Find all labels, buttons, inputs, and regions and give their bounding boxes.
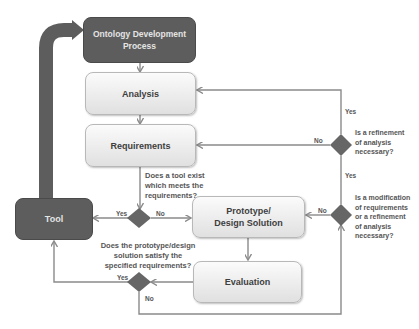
decision-modification-question: Is a modification of requirements or a r… — [355, 193, 410, 241]
decision-modification-no-label: No — [318, 207, 327, 214]
decision-tool-exists-diamond — [127, 208, 151, 228]
node-ontology-development-process: Ontology Development Process — [83, 17, 196, 63]
node-requirements: Requirements — [85, 124, 196, 167]
decision-modification-yes-label: Yes — [345, 172, 356, 179]
decision-tool-exists-question: Does a tool exist which meets the requir… — [145, 171, 205, 201]
decision-satisfy-yes-label: Yes — [117, 274, 128, 281]
node-evaluation: Evaluation — [193, 261, 302, 303]
node-ontology-label: Ontology Development Process — [90, 28, 189, 52]
node-prototype-label-line2: Design Solution — [214, 217, 283, 229]
node-analysis-label: Analysis — [122, 89, 159, 99]
decision-tool-exists-no-label: No — [156, 210, 165, 217]
node-prototype-design-solution: Prototype/ Design Solution — [192, 196, 305, 238]
decision-satisfy-diamond — [127, 272, 151, 292]
decision-refinement-yes-label: Yes — [345, 108, 356, 115]
node-tool: Tool — [15, 198, 93, 240]
decision-tool-exists-yes-label: Yes — [116, 210, 127, 217]
node-prototype-label-line1: Prototype/ — [226, 205, 271, 217]
node-requirements-label: Requirements — [110, 141, 170, 151]
decision-refinement-question: Is a refinement of analysis necessary? — [355, 128, 404, 157]
decision-refinement-no-label: No — [314, 137, 323, 144]
decision-refinement-diamond — [330, 134, 352, 156]
decision-satisfy-no-label: No — [145, 295, 154, 302]
node-evaluation-label: Evaluation — [225, 277, 271, 287]
node-analysis: Analysis — [85, 72, 196, 115]
decision-satisfy-question: Does the prototype/design solution satis… — [92, 241, 204, 271]
decision-modification-diamond — [330, 204, 352, 226]
node-tool-label: Tool — [45, 214, 63, 224]
